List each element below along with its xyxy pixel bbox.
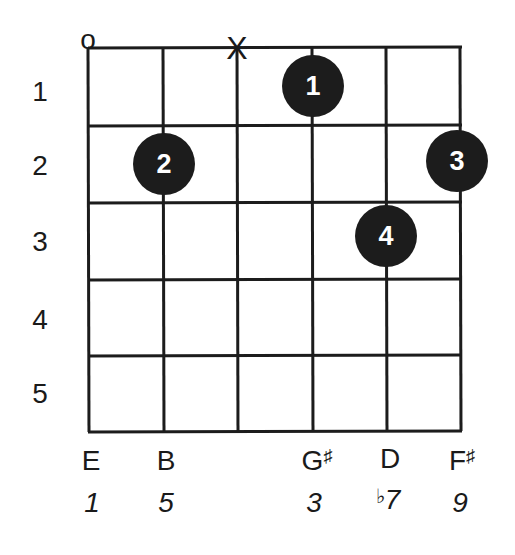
fret-number-5: 5 <box>32 380 48 408</box>
finger-number: 3 <box>449 146 464 177</box>
open-string-icon: o <box>80 26 96 54</box>
fret-number-4: 4 <box>32 306 48 334</box>
degree-string-5: ♭7 <box>376 486 401 514</box>
finger-number: 1 <box>305 71 320 102</box>
finger-dot-4: 4 <box>355 205 417 267</box>
note-name-string-5: D <box>380 445 400 473</box>
degree-string-2: 5 <box>158 489 174 517</box>
degree-string-4: 3 <box>306 489 322 517</box>
muted-string-icon: X <box>226 32 247 64</box>
fret-number-3: 3 <box>32 228 48 256</box>
finger-dot-2: 2 <box>133 133 195 195</box>
finger-dot-3: 3 <box>426 130 488 192</box>
finger-number: 2 <box>156 149 171 180</box>
note-name-string-4: G♯ <box>302 447 333 475</box>
degree-string-6: 9 <box>452 489 468 517</box>
fretboard-grid <box>0 0 515 555</box>
fret-number-2: 2 <box>32 152 48 180</box>
fret-number-1: 1 <box>32 78 48 106</box>
flat-icon: ♭ <box>376 485 385 507</box>
note-name-string-2: B <box>157 447 176 475</box>
finger-dot-1: 1 <box>282 55 344 117</box>
degree-string-1: 1 <box>84 489 100 517</box>
note-name-string-1: E <box>82 447 101 475</box>
note-name-string-6: F♯ <box>449 447 475 475</box>
finger-number: 4 <box>378 221 393 252</box>
